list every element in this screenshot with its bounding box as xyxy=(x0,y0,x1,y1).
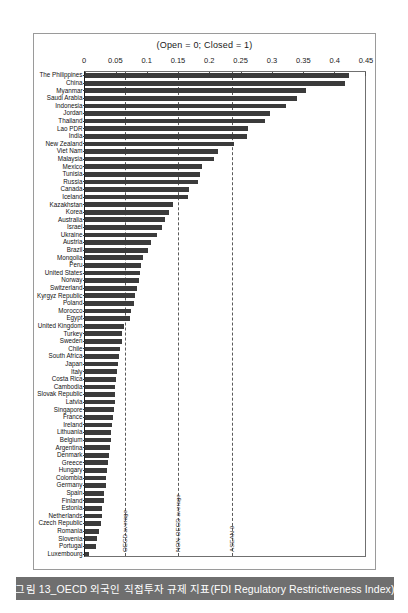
bar xyxy=(85,96,297,101)
category-label: Germany xyxy=(57,481,83,488)
x-tick-label: 0.3 xyxy=(267,56,277,65)
bar-row: Denmark xyxy=(85,452,365,460)
bar xyxy=(85,415,113,420)
bar-row: Jordan xyxy=(85,110,365,118)
category-label: Russia xyxy=(63,178,82,185)
bar xyxy=(85,81,345,86)
bar-row: Turkey xyxy=(85,330,365,338)
category-label: United States xyxy=(45,269,83,276)
bar xyxy=(85,445,110,450)
bar-row: Myanmar xyxy=(85,87,365,95)
bar-row: Thailand xyxy=(85,118,365,126)
category-label: Canada xyxy=(60,185,82,192)
category-label: Ireland xyxy=(63,421,82,428)
bar-row: Korea xyxy=(85,209,365,217)
bar xyxy=(85,142,234,147)
bar-row: Sweden xyxy=(85,338,365,346)
category-label: Belgium xyxy=(60,436,83,443)
bar xyxy=(85,407,114,412)
bar xyxy=(85,119,265,124)
bar-row: Malaysia xyxy=(85,156,365,164)
bar xyxy=(85,217,165,222)
bar xyxy=(85,164,202,169)
category-label: Viet Nam xyxy=(57,147,83,154)
x-tick-label: 0.45 xyxy=(359,56,374,65)
bar-row: Kazakhstan xyxy=(85,201,365,209)
x-tick-label: 0.25 xyxy=(233,56,248,65)
bar-row: Mongolia xyxy=(85,254,365,262)
bar-row: Indonesia xyxy=(85,102,365,110)
bar-row: Luxembourg xyxy=(85,550,365,558)
bar xyxy=(85,506,102,511)
bar xyxy=(85,339,122,344)
category-label: Kyrgyz Republic xyxy=(37,292,83,299)
bar xyxy=(85,88,306,93)
bar xyxy=(85,301,134,306)
bar xyxy=(85,278,139,283)
bar xyxy=(85,498,104,503)
category-label: Argentina xyxy=(56,444,83,451)
category-label: Slovenia xyxy=(58,535,82,542)
bar-row: Lao PDR xyxy=(85,125,365,133)
x-axis-tick-labels: 00.050.10.150.20.250.30.350.40.45 xyxy=(34,56,375,68)
figure-page: (Open = 0; Closed = 1) 00.050.10.150.20.… xyxy=(0,0,408,613)
bar-row: France xyxy=(85,414,365,422)
category-label: Morocco xyxy=(58,307,82,314)
bar-row: Hungary xyxy=(85,467,365,475)
bar xyxy=(85,271,140,276)
category-label: Chile xyxy=(68,345,82,352)
bar xyxy=(85,354,119,359)
bar-row: Costa Rica xyxy=(85,376,365,384)
bar xyxy=(85,385,115,390)
bar-row: Romania xyxy=(85,528,365,536)
bar-row: Israel xyxy=(85,224,365,232)
plot-area: OECD averageNON-OECD averageASEAN 9 The … xyxy=(84,71,366,557)
bar-row: Switzerland xyxy=(85,285,365,293)
bar-row: Poland xyxy=(85,300,365,308)
bar-row: Greece xyxy=(85,459,365,467)
x-tick-label: 0.15 xyxy=(171,56,186,65)
bar-row: Cambodia xyxy=(85,383,365,391)
bar xyxy=(85,400,115,405)
bar-row: United Kingdom xyxy=(85,323,365,331)
bar xyxy=(85,514,102,519)
bar xyxy=(85,324,124,329)
category-label: Indonesia xyxy=(55,102,82,109)
bar xyxy=(85,240,151,245)
bar-row: Russia xyxy=(85,178,365,186)
bar xyxy=(85,423,112,428)
bar-row: Germany xyxy=(85,482,365,490)
category-label: Hungary xyxy=(59,466,83,473)
bar-row: India xyxy=(85,133,365,141)
bar-row: Viet Nam xyxy=(85,148,365,156)
bar-row: Australia xyxy=(85,216,365,224)
category-label: Spain xyxy=(66,489,82,496)
bar-row: Argentina xyxy=(85,444,365,452)
bar-row: Iceland xyxy=(85,194,365,202)
bar-row: Kyrgyz Republic xyxy=(85,292,365,300)
bar-row: China xyxy=(85,80,365,88)
category-label: Italy xyxy=(71,368,83,375)
category-label: Iceland xyxy=(62,193,82,200)
category-label: Latvia xyxy=(66,398,83,405)
chart-title: (Open = 0; Closed = 1) xyxy=(34,40,375,50)
category-label: The Philippines xyxy=(39,71,82,78)
bar xyxy=(85,377,116,382)
category-label: Turkey xyxy=(63,330,82,337)
bar xyxy=(85,529,99,534)
category-label: Myanmar xyxy=(56,87,82,94)
bar xyxy=(85,157,214,162)
category-label: Portugal xyxy=(59,542,82,549)
category-label: Norway xyxy=(61,276,82,283)
category-label: Jordan xyxy=(63,109,82,116)
category-label: Sweden xyxy=(60,337,83,344)
bar xyxy=(85,233,157,238)
bar xyxy=(85,521,101,526)
bar xyxy=(85,225,162,230)
bar xyxy=(85,195,188,200)
category-label: Cambodia xyxy=(54,383,83,390)
bar xyxy=(85,552,89,557)
bar xyxy=(85,476,106,481)
category-label: Mexico xyxy=(63,163,83,170)
bar xyxy=(85,134,247,139)
